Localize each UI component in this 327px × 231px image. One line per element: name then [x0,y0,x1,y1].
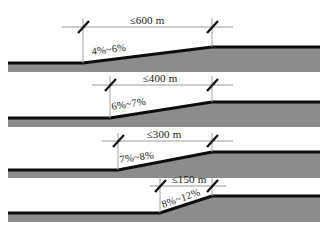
panel-3-length-label: ≤300 m [146,128,181,140]
panel-1-length-label: ≤600 m [129,14,164,26]
panel-4-length-label: ≤150 m [171,173,206,185]
panel-1-ground-fill [8,47,320,72]
panel-2-ground-fill [8,102,320,127]
panel-2-length-label: ≤400 m [142,72,177,84]
panel-2: ≤400 m 6%~7% [8,72,320,127]
panel-4: ≤150 m 8%~12% [8,173,320,222]
panel-2-grade-label: 6%~7% [111,96,147,112]
panel-1: ≤600 m 4%~6% [8,14,320,72]
panel-1-grade-label: 4%~6% [91,42,127,57]
gradient-diagram: ≤600 m 4%~6% ≤400 m 6%~7% ≤300 m [0,0,327,231]
panel-3-ground-fill [8,152,320,178]
panel-3: ≤300 m 7%~8% [8,128,320,178]
